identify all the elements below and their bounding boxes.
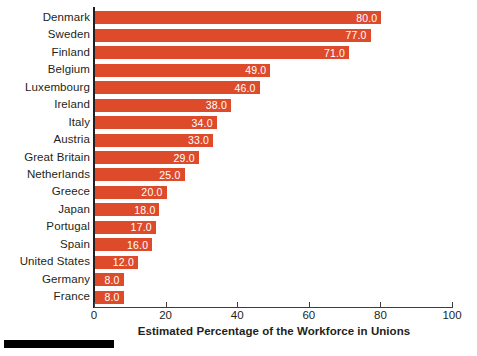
axis-tick-label: 100 [442, 310, 461, 322]
bar-value-label: 29.0 [174, 152, 195, 163]
category-label: Japan [58, 204, 90, 216]
bar: 25.0 [95, 168, 185, 181]
bar: 49.0 [95, 64, 270, 77]
bar: 29.0 [95, 151, 199, 164]
bar-value-label: 33.0 [188, 135, 209, 146]
category-label: Netherlands [27, 169, 90, 181]
bar-row: Austria33.0 [95, 134, 453, 147]
category-label: Greece [52, 187, 90, 199]
bar-value-label: 8.0 [104, 292, 119, 303]
bottom-rule [4, 340, 114, 348]
category-label: Great Britain [24, 152, 90, 164]
axis-tick-label: 40 [231, 310, 244, 322]
bar-value-label: 18.0 [134, 205, 155, 216]
category-label: Germany [42, 274, 90, 286]
bar-value-label: 46.0 [234, 82, 255, 93]
category-label: Austria [54, 134, 91, 146]
bar: 12.0 [95, 256, 138, 269]
bar-row: Luxembourg46.0 [95, 81, 453, 94]
bar: 38.0 [95, 99, 231, 112]
bar-value-label: 8.0 [104, 275, 119, 286]
bar-row: Finland71.0 [95, 46, 453, 59]
bar: 77.0 [95, 29, 371, 42]
bar-value-label: 25.0 [159, 170, 180, 181]
category-label: Finland [52, 47, 90, 59]
bar: 33.0 [95, 134, 213, 147]
axis-tick-label: 80 [374, 310, 387, 322]
bar-rows: Denmark80.0Sweden77.0Finland71.0Belgium4… [95, 9, 453, 306]
bar-value-label: 12.0 [113, 257, 134, 268]
bar-chart: Denmark80.0Sweden77.0Finland71.0Belgium4… [0, 0, 477, 356]
bar-value-label: 77.0 [345, 30, 366, 41]
bar-row: Greece20.0 [95, 186, 453, 199]
bar-value-label: 34.0 [191, 117, 212, 128]
axis-tick [452, 302, 453, 308]
bar-row: Italy34.0 [95, 116, 453, 129]
category-label: Sweden [48, 29, 90, 41]
bar: 71.0 [95, 46, 349, 59]
bar-value-label: 20.0 [141, 187, 162, 198]
bar: 34.0 [95, 116, 217, 129]
bar-value-label: 49.0 [245, 65, 266, 76]
category-label: Ireland [54, 99, 90, 111]
plot-area: Denmark80.0Sweden77.0Finland71.0Belgium4… [95, 9, 453, 306]
bar-row: Great Britain29.0 [95, 151, 453, 164]
axis-tick-label: 20 [159, 310, 172, 322]
bar-row: Netherlands25.0 [95, 168, 453, 181]
bar: 20.0 [95, 186, 167, 199]
bar-value-label: 16.0 [127, 240, 148, 251]
bar: 8.0 [95, 273, 124, 286]
bar-row: Spain16.0 [95, 238, 453, 251]
axis-tick [94, 302, 95, 308]
bar-row: Denmark80.0 [95, 11, 453, 24]
category-label: Luxembourg [25, 82, 90, 94]
axis-tick-label: 0 [91, 310, 97, 322]
bar-row: Belgium49.0 [95, 64, 453, 77]
bar-row: Sweden77.0 [95, 29, 453, 42]
bar-row: Germany8.0 [95, 273, 453, 286]
bar-row: Ireland38.0 [95, 99, 453, 112]
bar-value-label: 80.0 [356, 12, 377, 23]
category-label: Portugal [46, 222, 90, 234]
bar-value-label: 17.0 [131, 222, 152, 233]
bar-value-label: 38.0 [206, 100, 227, 111]
bar: 80.0 [95, 11, 381, 24]
category-label: United States [20, 257, 90, 269]
axis-tick-label: 60 [302, 310, 315, 322]
category-label: Italy [68, 117, 90, 129]
axis-tick [166, 302, 167, 308]
category-label: Denmark [43, 12, 90, 24]
bar: 17.0 [95, 221, 156, 234]
x-axis-title: Estimated Percentage of the Workforce in… [95, 325, 453, 337]
axis-tick [237, 302, 238, 308]
axis-tick [309, 302, 310, 308]
axis-tick [380, 302, 381, 308]
bar-row: Japan18.0 [95, 203, 453, 216]
bar: 46.0 [95, 81, 260, 94]
bar-row: United States12.0 [95, 256, 453, 269]
category-label: Belgium [48, 64, 90, 76]
bar-value-label: 71.0 [324, 47, 345, 58]
bar: 16.0 [95, 238, 152, 251]
category-label: France [54, 292, 90, 304]
bar-row: Portugal17.0 [95, 221, 453, 234]
category-label: Spain [60, 239, 90, 251]
bar: 18.0 [95, 203, 159, 216]
